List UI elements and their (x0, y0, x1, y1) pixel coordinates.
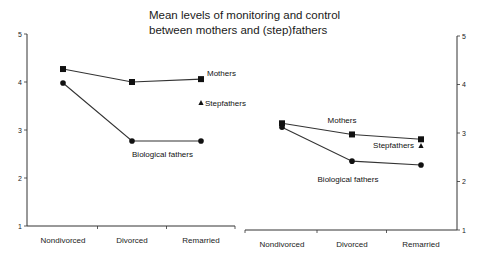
panel-2: 12345NondivorcedDivorcedRemarriedMothers… (245, 33, 466, 250)
y-tick-label: 2 (462, 178, 466, 185)
series-label: Stepfathers (205, 99, 246, 108)
x-category-label: Divorced (116, 236, 148, 245)
title-line-2: between mothers and (step)fathers (149, 24, 328, 36)
series-mothers: Mothers (60, 66, 236, 85)
series-label: Biological fathers (318, 175, 379, 184)
square-marker (349, 131, 355, 137)
x-category-label: Nondivorced (41, 236, 86, 245)
square-marker (198, 76, 204, 82)
series-line (63, 83, 201, 141)
series-mothers: Mothers (279, 116, 424, 142)
y-tick-label: 5 (18, 31, 22, 38)
x-category-label: Remarried (402, 240, 439, 249)
circle-marker (60, 80, 66, 86)
plot-area: 12345NondivorcedDivorcedRemarriedMothers… (18, 31, 466, 250)
square-marker (60, 66, 66, 72)
y-tick-label: 5 (462, 33, 466, 40)
x-category-label: Nondivorced (260, 240, 305, 249)
chart: Mean levels of monitoring and control be… (0, 0, 481, 257)
title-line-1: Mean levels of monitoring and control (149, 9, 340, 21)
circle-marker (279, 124, 285, 130)
circle-marker (349, 158, 355, 164)
circle-marker (198, 138, 204, 144)
triangle-marker (418, 143, 423, 148)
square-marker (129, 79, 135, 85)
triangle-marker (198, 100, 203, 105)
series-label: Biological fathers (132, 150, 193, 159)
circle-marker (418, 162, 424, 168)
y-tick-label: 3 (462, 130, 466, 137)
y-tick-label: 1 (462, 227, 466, 234)
circle-marker (129, 138, 135, 144)
series-biological-fathers: Biological fathers (60, 80, 204, 159)
y-tick-label: 4 (462, 81, 466, 88)
series-label: Stepfathers (373, 141, 414, 150)
y-tick-label: 4 (18, 79, 22, 86)
x-category-label: Remarried (182, 236, 219, 245)
series-stepfathers: Stepfathers (198, 99, 246, 108)
series-label: Mothers (207, 69, 236, 78)
x-category-label: Divorced (336, 240, 368, 249)
y-tick-label: 2 (18, 175, 22, 182)
series-stepfathers: Stepfathers (373, 141, 424, 150)
panel-1: 12345NondivorcedDivorcedRemarriedMothers… (18, 31, 246, 246)
chart-title: Mean levels of monitoring and control be… (149, 9, 340, 36)
y-tick-label: 1 (18, 223, 22, 230)
y-tick-label: 3 (18, 127, 22, 134)
square-marker (418, 136, 424, 142)
series-label: Mothers (328, 116, 357, 125)
